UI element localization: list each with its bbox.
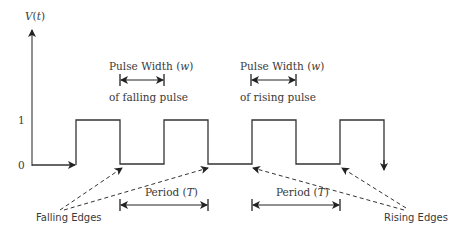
pulse-width-falling-sublabel: of falling pulse [109, 91, 188, 103]
falling-edges-label: Falling Edges [36, 212, 102, 224]
rising-edges-label: Rising Edges [384, 212, 448, 224]
y-axis-label: V(t) [25, 10, 45, 22]
square-wave [76, 120, 384, 166]
period-left-label: Period (T) [145, 186, 198, 198]
pulse-diagram: V(t) 1 0 Pulse Width (w) of falling puls… [0, 0, 460, 236]
pulse-width-rising-sublabel: of rising pulse [240, 91, 316, 103]
diagram-graphics [0, 0, 460, 236]
level-1-label: 1 [18, 114, 25, 126]
period-left-marker [120, 199, 208, 211]
pulse-width-falling-label: Pulse Width (w) [109, 60, 193, 72]
period-right-marker [252, 199, 340, 211]
period-right-label: Period (T) [276, 186, 329, 198]
pulse-width-falling-marker [120, 74, 164, 86]
pulse-width-rising-marker [251, 74, 296, 86]
level-0-label: 0 [18, 159, 25, 171]
pulse-width-rising-label: Pulse Width (w) [240, 60, 324, 72]
